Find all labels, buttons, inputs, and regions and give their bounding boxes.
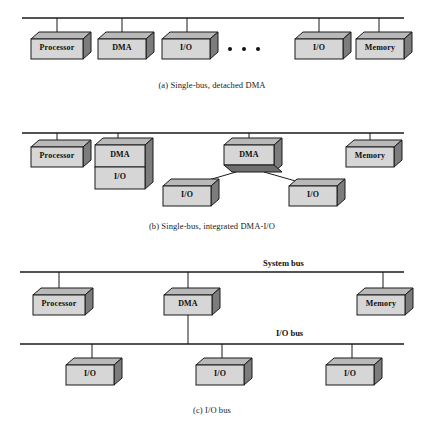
panel-b-box-dma-center <box>224 138 282 172</box>
ellipsis-dot-3 <box>256 47 260 51</box>
panel-a <box>22 18 412 59</box>
panel-b-box-processor <box>31 140 91 167</box>
panel-b-box-dma-io-stack <box>95 138 153 189</box>
panel-b-box-memory <box>346 140 402 167</box>
panel-b <box>22 133 404 206</box>
panel-c-box-io-2 <box>196 358 252 385</box>
panel-a-box-io-1 <box>162 32 218 59</box>
panel-c <box>20 272 413 385</box>
panel-c-io-bus-label: I/O bus <box>276 328 303 338</box>
ellipsis-dot-2 <box>242 47 246 51</box>
panel-b-box-io-right <box>289 179 345 206</box>
panel-c-system-bus-label: System bus <box>263 258 304 268</box>
panel-c-box-dma <box>164 288 220 315</box>
panel-c-box-io-3 <box>326 358 382 385</box>
panel-b-box-io-left <box>163 179 219 206</box>
panel-a-box-io-2 <box>295 32 351 59</box>
panel-b-caption: (b) Single-bus, integrated DMA-I/O <box>0 221 424 231</box>
ellipsis-dot-1 <box>228 47 232 51</box>
panel-a-box-dma <box>98 32 154 59</box>
panel-c-box-io-1 <box>66 358 122 385</box>
panel-c-caption: (c) I/O bus <box>0 405 424 415</box>
panel-a-caption: (a) Single-bus, detached DMA <box>0 80 424 90</box>
panel-c-box-memory <box>357 288 413 315</box>
figure-canvas: Processor DMA I/O I/O Memory (a) Single-… <box>0 0 424 431</box>
panel-a-box-processor <box>31 32 91 59</box>
panel-a-box-memory <box>356 32 412 59</box>
panel-c-box-processor <box>33 288 93 315</box>
diagram-vector-layer <box>0 0 424 431</box>
